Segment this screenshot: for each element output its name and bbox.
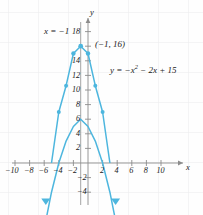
ytick-label-8: 8 [76, 101, 80, 109]
xtick-label-10: 10 [156, 167, 164, 175]
ytick-label-neg4: −4 [77, 188, 87, 196]
equation-lhs: y = −x [110, 65, 135, 75]
ytick-label-4: 4 [76, 130, 80, 138]
xtick-label-4: 4 [115, 167, 119, 175]
y-axis-arrow [86, 18, 91, 23]
xtick-label-2: 2 [100, 167, 104, 175]
ytick-label-2: 2 [76, 144, 80, 152]
xtick-label-8: 8 [144, 167, 148, 175]
xtick-label-6: 6 [129, 167, 133, 175]
xtick-label-neg2: −2 [68, 167, 78, 175]
coordinate-plane-svg [0, 0, 203, 215]
x-axis-arrow [178, 161, 183, 166]
ytick-label-10: 10 [72, 86, 80, 94]
y-axis-label: y [90, 8, 94, 17]
x-axis-label: x [186, 163, 190, 172]
xtick-label-neg6: −6 [39, 167, 49, 175]
equation-label: y = −x2 − 2x + 15 [110, 64, 177, 75]
parabola-graph-figure: −10 −8 −6 −4 −2 2 4 6 8 10 2 4 6 8 10 12… [0, 0, 203, 215]
vertex-label: (−1, 16) [95, 40, 125, 49]
axis-of-symmetry-label: x = −1 [44, 27, 69, 36]
ytick-label-18: 18 [72, 28, 80, 36]
ytick-label-neg2: −2 [77, 174, 87, 182]
xtick-label-neg8: −8 [24, 167, 34, 175]
ytick-label-6: 6 [76, 115, 80, 123]
xtick-label-neg4: −4 [53, 167, 63, 175]
ytick-label-12: 12 [72, 72, 80, 80]
ytick-label-14: 14 [72, 57, 80, 65]
xtick-label-neg10: −10 [5, 167, 19, 175]
equation-rhs: − 2x + 15 [138, 65, 177, 75]
